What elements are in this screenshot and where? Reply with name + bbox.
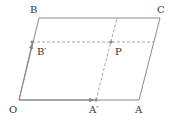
vector-ob-prime	[19, 44, 32, 100]
label-b: B	[30, 4, 37, 15]
label-b-prime: B′	[37, 46, 47, 57]
label-p: P	[115, 46, 122, 57]
label-a: A	[134, 104, 143, 115]
label-a-prime: A′	[88, 104, 99, 115]
label-o: O	[9, 104, 17, 115]
point-b-prime	[30, 40, 33, 43]
dashed-line-through-a-prime	[96, 18, 117, 100]
point-p	[109, 40, 112, 43]
label-c: C	[157, 4, 165, 15]
parallelogram-diagram: O A A′ B C B′ P	[0, 0, 175, 126]
parallelogram-outline	[19, 18, 160, 100]
point-a-prime	[94, 98, 97, 101]
